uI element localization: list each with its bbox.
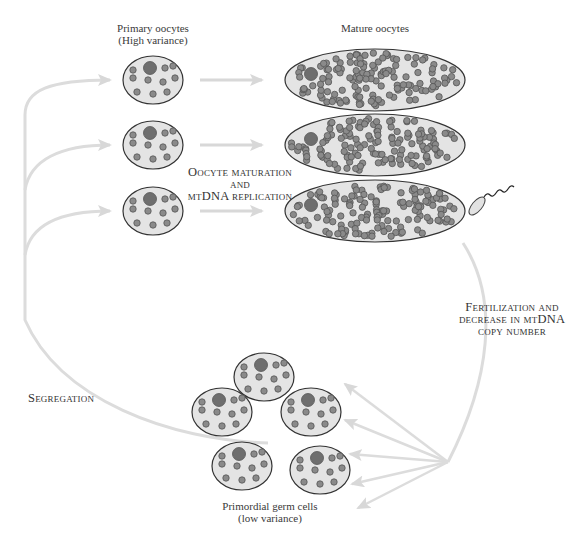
primordial-germ-cell (212, 442, 272, 490)
nucleus-icon (144, 193, 157, 206)
sperm-icon (466, 186, 514, 218)
primordial-germ-cell (281, 388, 341, 436)
primary-oocyte (123, 56, 183, 104)
primary-oocytes (123, 56, 183, 235)
pgc-subtitle: (low variance) (205, 512, 335, 524)
nucleus-icon (305, 133, 318, 146)
pgc-label: Primordial germ cells (low variance) (205, 500, 335, 524)
nucleus-icon (213, 394, 226, 407)
nucleus-icon (311, 452, 324, 465)
nucleus-icon (233, 448, 246, 461)
mature-oocyte (285, 180, 465, 242)
primordial-germ-cell (192, 388, 252, 436)
primary-oocytes-subtitle: (High variance) (108, 34, 198, 46)
primary-oocyte (123, 187, 183, 235)
primary-oocytes-title: Primary oocytes (108, 22, 198, 34)
nucleus-icon (302, 394, 315, 407)
nucleus-icon (144, 127, 157, 140)
primordial-germ-cell (234, 353, 294, 401)
mature-oocyte (285, 49, 465, 111)
mature-oocytes-label: Mature oocytes (320, 22, 430, 34)
primordial-germ-cell (290, 446, 350, 494)
maturation-label: Oocyte maturation and mtDNA replication (178, 166, 302, 202)
distribution-arrows (345, 384, 448, 508)
primary-oocytes-label: Primary oocytes (High variance) (108, 22, 198, 46)
maturation-line-3: mtDNA replication (178, 190, 302, 202)
nucleus-icon (305, 199, 318, 212)
mature-oocyte (285, 114, 465, 176)
mtdna-bottleneck-diagram (0, 0, 582, 533)
fertilization-path (448, 243, 486, 462)
mature-oocytes-title: Mature oocytes (320, 22, 430, 34)
nucleus-icon (305, 68, 318, 81)
segregation-text: Segregation (28, 392, 118, 404)
mature-oocytes (285, 49, 465, 242)
primordial-germ-cells (192, 353, 350, 494)
nucleus-icon (255, 359, 268, 372)
primary-oocyte (123, 121, 183, 169)
segregation-label: Segregation (28, 392, 118, 404)
pgc-title: Primordial germ cells (205, 500, 335, 512)
nucleus-icon (144, 62, 157, 75)
fertilization-line-3: copy number (444, 325, 580, 337)
fertilization-label: Fertilization and decrease in mtDNA copy… (444, 301, 580, 337)
